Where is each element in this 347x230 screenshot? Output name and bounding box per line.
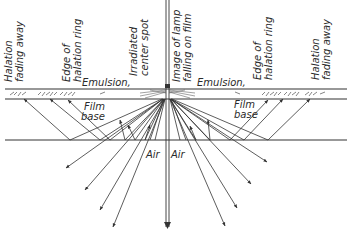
label-halation-fading-right: Halation fading away [310,18,332,80]
label-halation-fading-left: Halation fading away [3,20,25,82]
halation-scatter-marks [10,92,325,96]
svg-text:Edge of: Edge of [252,41,263,80]
label-image-of-lamp: Image of lamp falling on film [171,10,193,82]
svg-text:center spot: center spot [139,18,150,76]
label-film-base-left-2: base [81,111,105,122]
label-air-left: Air [145,149,161,160]
label-edge-ring-right: Edge of halation ring [252,17,274,80]
label-emulsion-left: Emulsion, [82,77,131,88]
svg-text:fading away: fading away [321,18,332,80]
label-irradiated-center-spot: Irradiated center spot [128,18,150,76]
irradiated-center-spot [140,90,195,98]
label-edge-ring-left: Edge of halation ring [61,19,83,82]
svg-text:falling on film: falling on film [182,13,193,82]
svg-text:Halation: Halation [3,40,14,82]
label-film-base-right-2: base [234,109,258,120]
svg-text:halation ring: halation ring [263,17,274,80]
label-emulsion-right: Emulsion, [197,77,246,88]
lamp-beam [164,0,171,229]
svg-text:Edge of: Edge of [61,43,72,82]
svg-text:Image of lamp: Image of lamp [171,10,182,82]
svg-text:Halation: Halation [310,38,321,80]
label-air-right: Air [170,149,186,160]
svg-text:halation ring: halation ring [72,19,83,82]
halation-diagram: Halation fading away Edge of halation ri… [0,0,347,230]
svg-text:fading away: fading away [14,20,25,82]
svg-text:Irradiated: Irradiated [128,26,139,76]
